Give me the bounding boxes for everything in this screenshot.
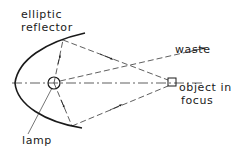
reflector-label-line2: reflector: [21, 22, 73, 34]
reflector-label-line1: elliptic: [21, 9, 62, 21]
ray-bottom-to-object: [72, 86, 168, 126]
object-label-line2: focus: [181, 95, 213, 107]
ray-top-to-object-arrow: [100, 54, 112, 59]
lamp-leader-line: [28, 88, 52, 134]
lamp-label: lamp: [22, 135, 52, 147]
waste-label: waste: [175, 44, 211, 56]
object-label-line1: object in: [179, 82, 232, 94]
ray-lamp-to-top-arrow: [58, 56, 60, 64]
ray-lamp-to-bottom-arrow: [61, 100, 64, 107]
object-square: [168, 78, 176, 86]
ray-bottom-to-object-arrow: [110, 105, 121, 110]
elliptic-reflector-curve: [15, 33, 85, 128]
